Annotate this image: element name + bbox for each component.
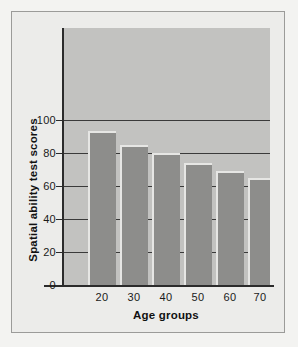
chart-figure: 100 80 60 40 20 0 20 30 40 50 60 70 Age … xyxy=(0,0,298,347)
x-axis-line xyxy=(44,285,274,287)
xtick-label-50: 50 xyxy=(181,291,215,303)
bar-age-50 xyxy=(184,163,212,285)
bar-age-60 xyxy=(216,171,244,285)
bar-age-20 xyxy=(88,131,116,285)
ytick-mark-40 xyxy=(56,219,62,220)
ytick-mark-80 xyxy=(56,153,62,154)
y-axis-title: Spatial ability test scores xyxy=(27,110,39,270)
ytick-mark-60 xyxy=(56,186,62,187)
x-axis-title: Age groups xyxy=(62,309,270,321)
ytick-mark-20 xyxy=(56,252,62,253)
bar-age-70 xyxy=(248,178,270,285)
bar-age-40 xyxy=(152,153,180,285)
gridline-100 xyxy=(62,120,270,121)
xtick-label-40: 40 xyxy=(149,291,183,303)
xtick-label-30: 30 xyxy=(117,291,151,303)
bar-age-30 xyxy=(120,145,148,285)
ytick-label-0: 0 xyxy=(26,279,56,291)
xtick-label-20: 20 xyxy=(85,291,119,303)
xtick-label-70: 70 xyxy=(243,291,277,303)
y-axis-line xyxy=(62,28,64,286)
ytick-mark-100 xyxy=(56,120,62,121)
xtick-label-60: 60 xyxy=(213,291,247,303)
